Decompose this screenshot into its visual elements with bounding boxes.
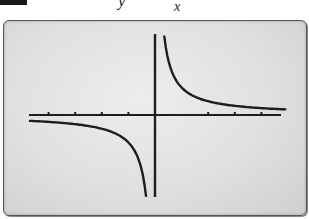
figure-label-block bbox=[0, 0, 27, 5]
curve-right-branch bbox=[164, 36, 285, 109]
graph-plot bbox=[4, 21, 306, 215]
curve-left-branch bbox=[30, 121, 146, 196]
calculator-screen bbox=[3, 20, 307, 216]
equation-y: y bbox=[118, 0, 126, 11]
axes bbox=[29, 34, 281, 197]
equation-denominator-x: x bbox=[174, 0, 180, 15]
